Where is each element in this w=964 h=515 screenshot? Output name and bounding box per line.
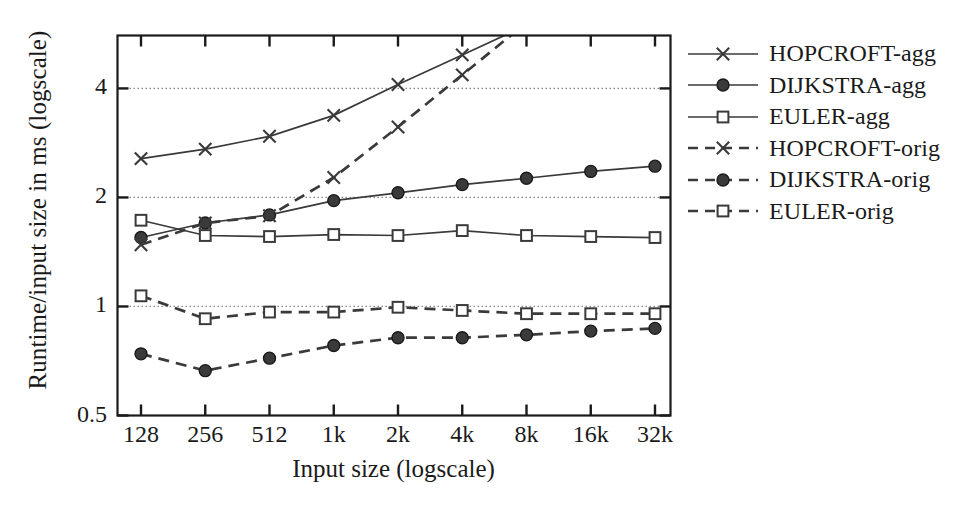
data-marker-disc <box>328 195 340 207</box>
legend-swatch-cross-dashed-icon <box>686 137 760 159</box>
legend-item-hopcroft-orig[interactable]: HOPCROFT-orig <box>686 133 940 165</box>
chart-figure: Runtime/input size in ms (logscale) Inpu… <box>0 0 964 515</box>
data-marker-disc <box>456 179 468 191</box>
legend-swatch-disc-dashed-icon <box>686 169 760 191</box>
x-axis-title: Input size (logscale) <box>117 455 670 483</box>
y-axis-title: Runtime/input size in ms (logscale) <box>24 10 52 410</box>
data-marker-square <box>585 231 596 242</box>
data-marker-cross <box>456 69 468 81</box>
data-marker-square <box>650 308 661 319</box>
data-marker-cross <box>456 49 468 61</box>
data-marker-disc <box>717 79 729 91</box>
data-marker-square <box>521 308 532 319</box>
data-marker-square <box>585 308 596 319</box>
data-marker-disc <box>328 340 340 352</box>
legend-item-euler-agg[interactable]: EULER-agg <box>686 101 940 133</box>
series-dijkstra-orig <box>135 322 661 376</box>
data-marker-square <box>136 290 147 301</box>
data-marker-square <box>200 230 211 241</box>
series-line <box>141 166 655 237</box>
legend-item-hopcroft-agg[interactable]: HOPCROFT-agg <box>686 38 940 70</box>
legend-swatch-disc-solid-icon <box>686 74 760 96</box>
data-marker-disc <box>456 332 468 344</box>
series-euler-orig <box>136 290 661 324</box>
data-marker-disc <box>392 332 404 344</box>
legend-swatch-square-solid-icon <box>686 106 760 128</box>
legend-item-euler-orig[interactable]: EULER-orig <box>686 196 940 228</box>
chart-legend: HOPCROFT-agg DIJKSTRA-agg EULER-agg HOPC… <box>686 38 940 227</box>
data-marker-square <box>393 302 404 313</box>
legend-label: EULER-agg <box>760 103 890 130</box>
data-marker-disc <box>521 329 533 341</box>
legend-item-dijkstra-orig[interactable]: DIJKSTRA-orig <box>686 164 940 196</box>
data-marker-disc <box>649 322 661 334</box>
data-marker-square <box>718 206 729 217</box>
legend-label: DIJKSTRA-orig <box>760 166 930 193</box>
legend-label: EULER-orig <box>760 198 894 225</box>
data-marker-cross <box>328 171 340 183</box>
data-marker-square <box>457 225 468 236</box>
data-marker-square <box>393 230 404 241</box>
data-marker-cross <box>392 121 404 133</box>
data-marker-disc <box>264 352 276 364</box>
data-marker-cross <box>328 109 340 121</box>
data-marker-disc <box>135 348 147 360</box>
data-marker-square <box>718 111 729 122</box>
y-tick-label: 4 <box>95 73 107 100</box>
x-tick-label: 32k <box>615 421 695 448</box>
data-marker-square <box>200 313 211 324</box>
legend-label: HOPCROFT-orig <box>760 135 940 162</box>
data-marker-disc <box>585 325 597 337</box>
data-marker-disc <box>199 365 211 377</box>
legend-swatch-square-dashed-icon <box>686 200 760 222</box>
data-marker-disc <box>392 187 404 199</box>
legend-label: HOPCROFT-agg <box>760 40 936 67</box>
series-hopcroft-orig <box>135 26 523 252</box>
data-marker-square <box>136 215 147 226</box>
legend-item-dijkstra-agg[interactable]: DIJKSTRA-agg <box>686 70 940 102</box>
data-marker-square <box>521 230 532 241</box>
y-tick-label: 2 <box>95 182 107 209</box>
data-marker-disc <box>585 165 597 177</box>
series-hopcroft-agg <box>135 26 526 165</box>
data-marker-square <box>650 232 661 243</box>
legend-swatch-cross-solid-icon <box>686 43 760 65</box>
series-euler-agg <box>136 215 661 243</box>
data-marker-disc <box>521 172 533 184</box>
data-marker-square <box>264 231 275 242</box>
data-marker-disc <box>649 160 661 172</box>
data-marker-square <box>264 307 275 318</box>
legend-label: DIJKSTRA-agg <box>760 72 926 99</box>
data-marker-square <box>328 307 339 318</box>
data-marker-square <box>328 229 339 240</box>
y-tick-label: 1 <box>95 291 107 318</box>
data-marker-disc <box>717 174 729 186</box>
data-marker-square <box>457 305 468 316</box>
